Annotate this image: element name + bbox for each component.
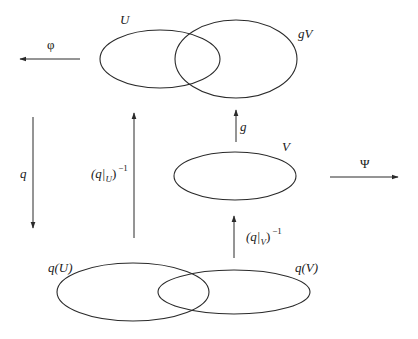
- set-U-label: U: [120, 12, 131, 27]
- set-qV-label: q(V): [295, 260, 318, 275]
- arrows-layer: [20, 59, 398, 258]
- arrow-q_restrict_U_inv-label: (q|U)−1: [91, 163, 128, 184]
- diagram-canvas: UgVVq(U)q(V)φq(q|U)−1g(q|V)−1Ψ: [0, 0, 418, 339]
- set-qU-label: q(U): [48, 260, 73, 275]
- arrow-phi-label: φ: [47, 37, 55, 52]
- set-qV-ellipse: [158, 270, 310, 314]
- arrow-g-label: g: [240, 119, 247, 134]
- arrow-q-label: q: [20, 166, 27, 181]
- set-qU-ellipse: [57, 263, 209, 321]
- set-gV-ellipse: [175, 20, 297, 98]
- set-V-ellipse: [174, 152, 296, 200]
- labels-layer: UgVVq(U)q(V)φq(q|U)−1g(q|V)−1Ψ: [20, 12, 370, 275]
- set-gV-label: gV: [298, 26, 315, 41]
- arrow-q_restrict_V_inv-label: (q|V)−1: [246, 226, 282, 247]
- set-U-ellipse: [100, 30, 220, 88]
- set-V-label: V: [282, 139, 292, 154]
- arrow-psi-label: Ψ: [360, 156, 370, 171]
